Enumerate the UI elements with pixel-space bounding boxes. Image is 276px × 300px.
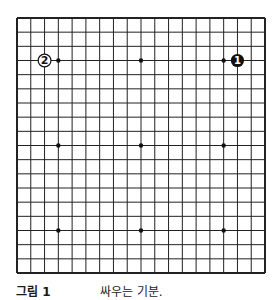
star-point	[221, 143, 225, 147]
stone-number: 2	[41, 54, 49, 67]
star-point	[56, 143, 60, 147]
star-point	[139, 143, 143, 147]
figure-label: 그림 1	[16, 282, 51, 299]
star-point	[221, 58, 225, 62]
star-point	[56, 228, 60, 232]
star-point	[139, 58, 143, 62]
figure-description: 싸우는 기분.	[100, 282, 163, 299]
star-point	[139, 228, 143, 232]
star-point	[221, 228, 225, 232]
stone-number: 1	[234, 55, 241, 66]
go-board: 12	[0, 0, 276, 280]
star-point	[56, 58, 60, 62]
